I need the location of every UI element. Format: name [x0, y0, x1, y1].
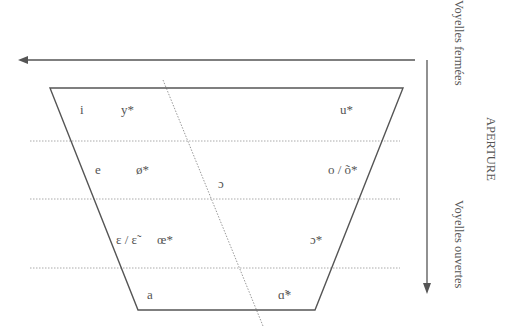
left-arrowhead-icon: [18, 56, 28, 64]
vowel-epsilon: ɛ / ɛ̃: [116, 233, 137, 246]
down-arrowhead-icon: [423, 283, 431, 294]
vowel-i: i: [80, 103, 84, 116]
vowel-a: a: [147, 288, 153, 301]
vowel-o-slash: ø*: [136, 163, 149, 176]
vowel-trapezoid-diagram: [0, 0, 507, 336]
vowel-u: u*: [340, 103, 353, 116]
diagonal-dotted-line: [163, 80, 263, 326]
vowel-open-o: ɔ*: [310, 233, 322, 246]
vowel-central-schwa: ɔ: [218, 177, 224, 190]
vowel-e: e: [95, 163, 101, 176]
vowel-a-nasal: ɑ̃*: [278, 288, 291, 301]
label-open-vowels: Voyelles ouvertes: [453, 200, 466, 288]
vowel-o-nasal: o / õ*: [328, 163, 358, 176]
vowel-y: y*: [121, 103, 134, 116]
vowel-oe: œ*: [157, 233, 173, 246]
label-aperture: APERTURE: [485, 117, 498, 181]
label-closed-vowels: Voyelles fermées: [453, 0, 466, 86]
